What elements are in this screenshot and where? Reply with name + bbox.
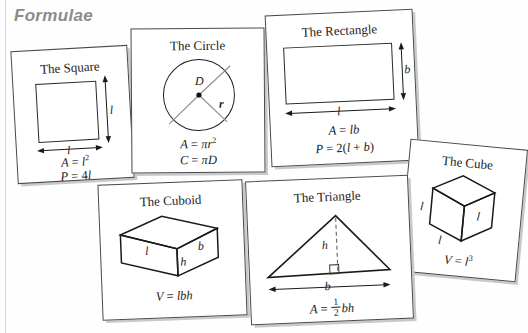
page-title: Formulae [14, 6, 93, 26]
page-left-rule [5, 0, 6, 333]
cuboid-height-label: h [180, 254, 187, 269]
rectangle-width-label: l [337, 104, 341, 119]
cuboid-breadth-label: b [198, 239, 205, 254]
card-the-cuboid[interactable]: The Cuboid l b h V = lbh [97, 179, 247, 320]
circle-diameter-label: D [195, 74, 204, 89]
card-the-triangle[interactable]: The Triangle h b A = 12bh [245, 175, 414, 326]
circle-radius-label: r [219, 97, 224, 112]
card-the-cube[interactable]: The Cube l l l V = l3 [398, 139, 528, 283]
formulae-poster: Formulae The Square l l A = l2 P = 4l Th… [0, 0, 528, 333]
cuboid-length-label: l [145, 244, 149, 259]
rectangle-height-label: b [404, 62, 411, 77]
circle-circumference-formula: C = πD [132, 153, 264, 169]
triangle-height-label: h [322, 238, 329, 253]
card-the-rectangle[interactable]: The Rectangle b l A = lb P = 2(l + b) [265, 9, 420, 168]
card-the-circle[interactable]: The Circle D r A = πr2 C = πD [130, 28, 265, 174]
triangle-base-label: b [324, 279, 331, 294]
circle-area-formula: A = πr2 [132, 136, 264, 153]
card-the-square[interactable]: The Square l l A = l2 P = 4l [10, 45, 134, 184]
